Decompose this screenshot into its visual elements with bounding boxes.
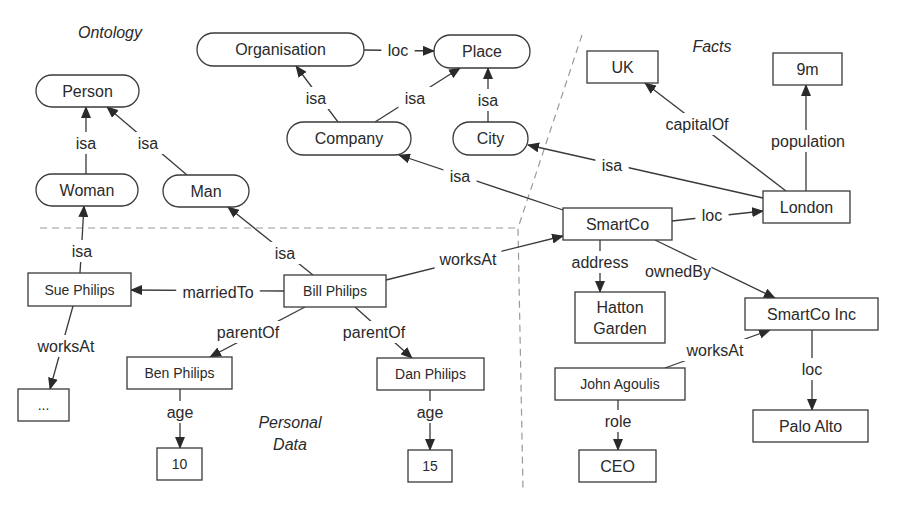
edge-bill-parentof-ben: parentOf	[210, 307, 305, 357]
node-label: Organisation	[235, 41, 326, 58]
edge-label: capitalOf	[665, 116, 729, 133]
node-label: Ben Philips	[144, 365, 214, 381]
node-nine-m[interactable]: 9m	[773, 53, 842, 85]
edge-label: isa	[478, 92, 499, 109]
node-label: John Agoulis	[580, 376, 659, 392]
node-john-agoulis[interactable]: John Agoulis	[555, 368, 685, 400]
edge-arrow	[228, 207, 313, 275]
node-ben-philips[interactable]: Ben Philips	[127, 357, 232, 389]
node-uk[interactable]: UK	[587, 51, 658, 83]
edge-label: marriedTo	[182, 284, 253, 301]
edge-city-isa-place: isa	[471, 68, 504, 122]
node-smartco[interactable]: SmartCo	[563, 208, 672, 240]
node-london[interactable]: London	[763, 191, 850, 223]
node-man[interactable]: Man	[163, 175, 249, 207]
edge-label: ownedBy	[645, 263, 711, 280]
edge-label: loc	[802, 361, 822, 378]
edge-label: parentOf	[217, 324, 280, 341]
region-label-personal-data-2: Data	[273, 436, 307, 453]
edge-label: isa	[450, 168, 471, 185]
edge-john-role-ceo: role	[597, 400, 639, 450]
edge-arrow	[399, 155, 563, 210]
node-label: ...	[38, 397, 50, 413]
node-palo-alto[interactable]: Palo Alto	[753, 410, 868, 442]
node-label: Place	[462, 43, 502, 60]
edge-label: loc	[388, 42, 408, 59]
edge-label: worksAt	[439, 251, 497, 268]
edge-company-isa-organisation: isa	[296, 66, 338, 122]
node-company[interactable]: Company	[287, 122, 411, 155]
edge-dan-age-15: age	[413, 390, 446, 450]
edge-john-worksat-inc: worksAt	[665, 330, 770, 368]
edge-label: isa	[138, 135, 159, 152]
edge-man-isa-person: isa	[107, 107, 187, 175]
edge-sue-isa-woman: isa	[65, 206, 98, 273]
edge-smartco-loc-london: loc	[672, 204, 763, 226]
edge-organisation-loc-place: loc	[364, 39, 434, 61]
node-dan-philips[interactable]: Dan Philips	[377, 358, 484, 390]
edge-bill-worksat-smartco: worksAt	[386, 236, 563, 280]
edge-label: isa	[602, 157, 623, 174]
edge-label: isa	[76, 135, 97, 152]
node-label-line2: Garden	[593, 320, 646, 337]
node-person[interactable]: Person	[36, 75, 139, 107]
node-label: Bill Philips	[303, 283, 367, 299]
node-label: CEO	[600, 458, 635, 475]
edge-bill-isa-man: isa	[228, 207, 313, 275]
node-ceo[interactable]: CEO	[579, 450, 656, 482]
node-woman[interactable]: Woman	[36, 174, 138, 206]
region-label-ontology: Ontology	[78, 24, 143, 41]
node-label: SmartCo	[586, 216, 649, 233]
node-label: Person	[62, 83, 113, 100]
edge-label: age	[167, 404, 194, 421]
node-hatton-garden[interactable]: HattonGarden	[575, 292, 665, 343]
node-organisation[interactable]: Organisation	[197, 33, 364, 66]
edge-bill-marriedto-sue: marriedTo	[131, 281, 284, 303]
node-label: Dan Philips	[395, 366, 466, 382]
edge-smartco-ownedby-inc: ownedBy	[645, 240, 775, 298]
node-smartco-inc[interactable]: SmartCo Inc	[745, 298, 878, 330]
node-label: London	[780, 199, 833, 216]
node-bill-philips[interactable]: Bill Philips	[284, 275, 386, 307]
node-label: Company	[315, 130, 383, 147]
node-sue-philips[interactable]: Sue Philips	[28, 273, 131, 306]
node-age-15[interactable]: 15	[408, 450, 452, 482]
edge-arrow	[528, 145, 763, 198]
region-label-personal-data-1: Personal	[258, 414, 322, 431]
node-label: Palo Alto	[779, 418, 842, 435]
edge-inc-loc-paloalto: loc	[795, 330, 828, 410]
edge-ben-age-10: age	[163, 389, 196, 448]
node-label: 10	[172, 456, 188, 472]
edge-london-isa-city: isa	[528, 145, 763, 198]
edge-label: parentOf	[343, 324, 406, 341]
edge-smartco-isa-company: isa	[399, 155, 563, 210]
edge-label: worksAt	[37, 338, 95, 355]
edge-company-isa-place: isa	[375, 68, 460, 122]
edge-label: isa	[275, 245, 296, 262]
node-ellipsis[interactable]: ...	[18, 389, 69, 421]
edge-label: population	[771, 133, 845, 150]
node-label: SmartCo Inc	[767, 306, 856, 323]
edge-bill-parentof-dan: parentOf	[336, 307, 412, 358]
node-label: 9m	[796, 61, 818, 78]
edge-sue-worksat-ellipsis: worksAt	[33, 306, 100, 389]
edge-label: isa	[72, 243, 93, 260]
node-label: City	[477, 130, 505, 147]
node-label: Hatton	[596, 299, 643, 316]
knowledge-graph-diagram: isaisaisaisaisalocisaisacapitalOfpopulat…	[0, 0, 898, 508]
edge-london-population-9m: population	[762, 85, 854, 191]
edge-arrow	[80, 206, 84, 273]
edge-label: loc	[702, 207, 722, 224]
node-label: UK	[611, 59, 634, 76]
edge-label: address	[572, 254, 629, 271]
node-city[interactable]: City	[453, 122, 528, 155]
node-label: 15	[422, 458, 438, 474]
region-label-facts: Facts	[692, 38, 731, 55]
node-age-10[interactable]: 10	[157, 448, 202, 480]
edge-label: worksAt	[686, 342, 744, 359]
edge-label: role	[605, 413, 632, 430]
node-place[interactable]: Place	[434, 35, 530, 68]
edge-woman-isa-person: isa	[69, 107, 102, 174]
edge-label: isa	[405, 90, 426, 107]
edge-label: isa	[306, 90, 327, 107]
